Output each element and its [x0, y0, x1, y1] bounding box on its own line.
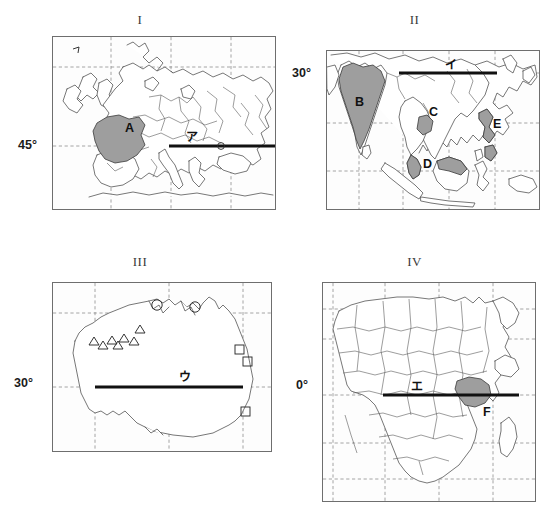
map-svg-asia: [327, 51, 539, 209]
kana-label-a: ア: [186, 127, 198, 144]
region-letter-E: E: [493, 117, 501, 131]
map-frame-australia: ウ: [52, 282, 272, 452]
region-letter-B: B: [355, 95, 364, 109]
map-svg-africa: [323, 283, 535, 501]
map-frame-asia: B C D E イ: [326, 50, 540, 210]
region-letter-A: A: [125, 121, 134, 135]
latitude-label-4: 0°: [296, 378, 308, 392]
map-svg-europe: [53, 37, 275, 209]
panel-asia: II 30°: [280, 8, 549, 238]
region-letter-D: D: [423, 157, 432, 171]
coastlines-africa: [333, 297, 519, 483]
region-letter-C: C: [429, 105, 438, 119]
map-svg-australia: [53, 283, 271, 451]
small-tick-marker: [73, 47, 79, 53]
panel-title-1: I: [0, 12, 280, 28]
panel-australia: III 30°: [0, 250, 280, 500]
latitude-label-1: 45°: [18, 138, 37, 152]
shaded-country-malaysia-peninsula: [407, 155, 421, 179]
shaded-country-philippines-mindanao: [485, 145, 497, 161]
panel-title-2: II: [280, 12, 549, 28]
panel-europe: I 45°: [0, 8, 280, 238]
kana-label-i: イ: [445, 55, 457, 72]
map-frame-africa: エ F: [322, 282, 536, 502]
region-letter-F: F: [483, 405, 491, 419]
figure-container: I 45°: [0, 0, 549, 506]
panel-africa: IV 0°: [280, 250, 549, 500]
latitude-label-2: 30°: [292, 66, 311, 80]
coastlines-australia: [73, 297, 253, 437]
panel-title-4: IV: [280, 254, 549, 270]
map-frame-europe: A ア: [52, 36, 276, 210]
kana-label-u: ウ: [179, 367, 191, 384]
kana-label-e: エ: [411, 377, 423, 394]
latitude-label-3: 30°: [14, 376, 33, 390]
panel-title-3: III: [0, 254, 280, 270]
